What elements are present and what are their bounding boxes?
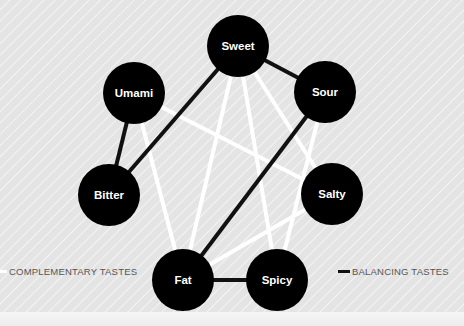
taste-node-bitter: Bitter [78,164,140,226]
taste-node-umami: Umami [103,62,165,124]
node-label: Sweet [221,40,254,52]
node-label: Bitter [94,189,125,201]
node-label: Umami [115,87,153,99]
node-label: Spicy [262,274,293,286]
taste-diagram: SweetUmamiSourBitterSaltyFatSpicy [0,0,464,326]
node-label: Salty [318,188,346,200]
taste-node-sour: Sour [294,61,356,123]
taste-node-spicy: Spicy [246,249,308,311]
black-line-swatch-icon [338,270,350,273]
white-line-swatch-icon [0,270,7,273]
legend-complementary: COMPLEMENTARY TASTES [0,266,137,277]
taste-node-salty: Salty [301,163,363,225]
legend-balancing-label: BALANCING TASTES [352,266,449,277]
node-label: Fat [174,274,191,286]
taste-node-sweet: Sweet [207,15,269,77]
taste-node-fat: Fat [152,249,214,311]
legend-balancing: BALANCING TASTES [338,266,449,277]
legend-complementary-label: COMPLEMENTARY TASTES [9,266,137,277]
bottom-band [0,312,464,326]
node-label: Sour [312,86,339,98]
